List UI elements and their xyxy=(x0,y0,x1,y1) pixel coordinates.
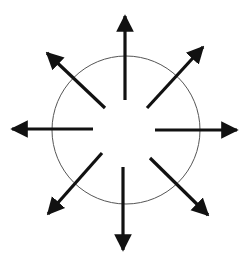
arrow-down-left-icon xyxy=(48,153,102,214)
arrow-up-right-icon xyxy=(147,47,203,108)
radiating-arrows-diagram xyxy=(0,0,248,259)
arrow-group xyxy=(12,16,237,250)
arrow-up-left-icon xyxy=(47,53,105,108)
arrow-down-right-icon xyxy=(150,158,208,215)
